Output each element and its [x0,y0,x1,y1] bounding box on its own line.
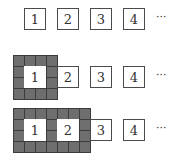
number-box-3: 3 [90,66,112,88]
ellipsis: ··· [156,11,167,24]
box-label: 2 [64,13,72,26]
number-box-1: 1 [24,66,46,88]
number-box-1: 1 [24,8,46,30]
box-label: 2 [64,124,72,137]
ellipsis: ··· [156,69,167,82]
box-label: 3 [97,71,105,84]
box-label: 4 [130,71,138,84]
number-box-2: 2 [57,119,79,141]
number-box-2: 2 [57,8,79,30]
number-box-3: 3 [90,119,112,141]
box-label: 3 [97,124,105,137]
number-box-4: 4 [123,119,145,141]
number-box-4: 4 [123,8,145,30]
number-box-2: 2 [57,66,79,88]
box-label: 4 [130,124,138,137]
ellipsis: ··· [156,122,167,135]
number-box-4: 4 [123,66,145,88]
number-box-1: 1 [24,119,46,141]
box-label: 1 [31,71,39,84]
number-box-3: 3 [90,8,112,30]
box-label: 1 [31,124,39,137]
box-label: 3 [97,13,105,26]
box-label: 1 [31,13,39,26]
box-label: 4 [130,13,138,26]
box-label: 2 [64,71,72,84]
